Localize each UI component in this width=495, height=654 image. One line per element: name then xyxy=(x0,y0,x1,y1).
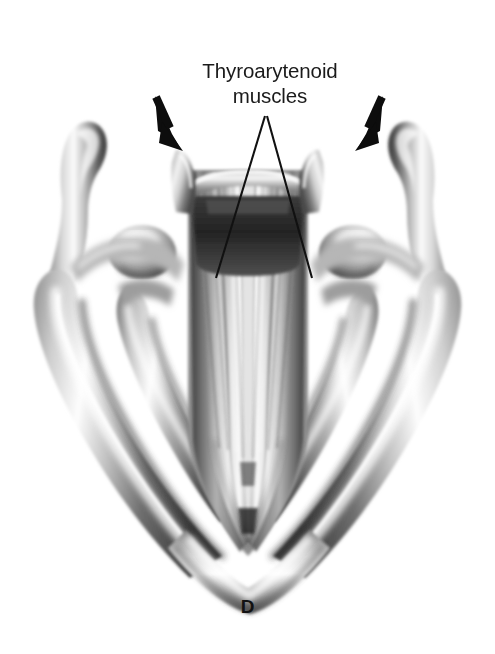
laryngeal-inlet xyxy=(192,196,304,276)
thyroarytenoid-muscles-label: Thyroarytenoid muscles xyxy=(160,58,380,108)
panel-letter-d: D xyxy=(0,596,495,618)
